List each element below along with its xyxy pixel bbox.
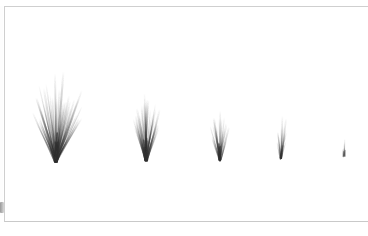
- scrollbar-track[interactable]: [0, 6, 3, 216]
- app-root: [0, 0, 368, 236]
- canvas-sheet[interactable]: [4, 6, 368, 222]
- scrollbar-thumb[interactable]: [0, 202, 4, 213]
